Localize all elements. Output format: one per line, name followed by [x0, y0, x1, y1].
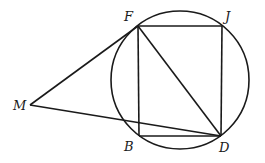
segment-mf — [30, 26, 138, 105]
segments — [30, 26, 222, 136]
segment-fd — [138, 26, 221, 136]
label-point-f: F — [123, 9, 134, 24]
segment-md — [30, 105, 221, 136]
label-point-m: M — [12, 98, 27, 113]
label-point-j: J — [222, 9, 231, 24]
segment-jd — [221, 26, 222, 136]
geometry-diagram: F J D B M — [0, 0, 265, 163]
label-point-b: B — [123, 139, 134, 154]
circle — [111, 11, 249, 149]
segment-bf — [138, 26, 139, 136]
label-point-d: D — [218, 140, 230, 155]
